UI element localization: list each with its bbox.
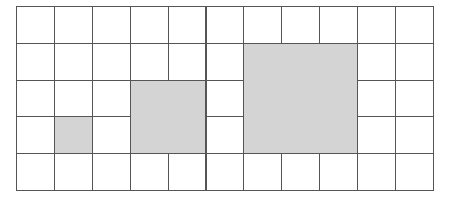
grid-cell [243, 6, 282, 44]
grid-cell [319, 6, 358, 44]
grid-cell [54, 80, 93, 118]
grid-cell [357, 43, 396, 81]
grid-cell [16, 6, 55, 44]
square-1x1 [54, 116, 93, 154]
grid-cell [168, 153, 207, 191]
grid-cell [130, 153, 169, 191]
grid-cell [281, 6, 320, 44]
grid-cell [168, 43, 207, 81]
grid-cell [54, 153, 93, 191]
grid-cell [395, 116, 434, 154]
grid-cell [357, 153, 396, 191]
grid-cell [130, 6, 169, 44]
grid-cell [395, 80, 434, 118]
grid-cell [16, 43, 55, 81]
grid-cell [92, 80, 131, 118]
grid-cell [206, 116, 245, 154]
square-grid [16, 6, 433, 190]
grid-cell [92, 6, 131, 44]
grid-cell [16, 153, 55, 191]
grid-cell [395, 153, 434, 191]
grid-cell [206, 43, 245, 81]
grid-cell [54, 6, 93, 44]
grid-cell [92, 116, 131, 154]
square-3x3 [243, 43, 358, 154]
grid-cell [206, 6, 245, 44]
grid-cell [319, 153, 358, 191]
grid-cell [243, 153, 282, 191]
grid-cell [281, 153, 320, 191]
grid-cell [92, 153, 131, 191]
grid-cell [16, 116, 55, 154]
grid-cell [206, 153, 245, 191]
grid-cell [206, 80, 245, 118]
grid-cell [395, 6, 434, 44]
grid-cell [395, 43, 434, 81]
grid-cell [357, 116, 396, 154]
grid-cell [16, 80, 55, 118]
grid-cell [54, 43, 93, 81]
grid-cell [130, 43, 169, 81]
grid-cell [357, 6, 396, 44]
grid-cell [357, 80, 396, 118]
grid-cell [92, 43, 131, 81]
square-2x2 [130, 80, 207, 155]
grid-cell [168, 6, 207, 44]
